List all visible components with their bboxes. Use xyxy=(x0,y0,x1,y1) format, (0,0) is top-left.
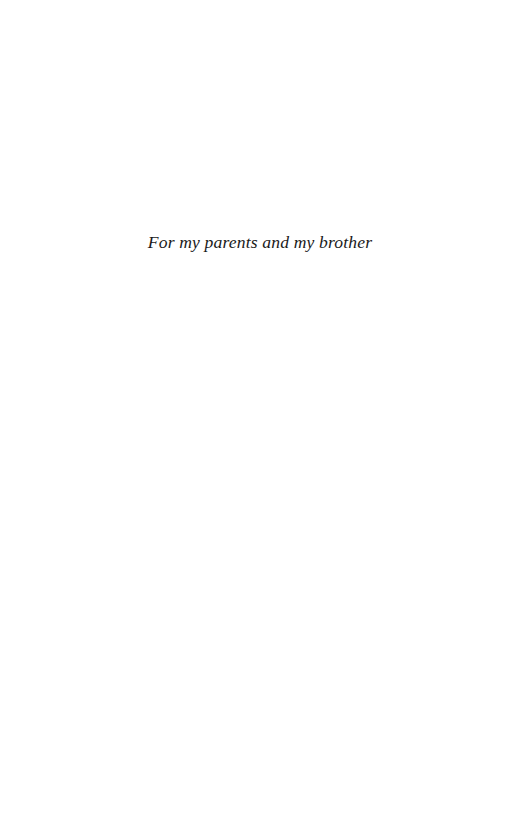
dedication-text: For my parents and my brother xyxy=(148,231,372,253)
dedication-block: For my parents and my brother xyxy=(0,228,520,256)
blank-area-above-dedication xyxy=(0,0,520,228)
blank-area-below-dedication xyxy=(0,256,520,839)
dedication-page: For my parents and my brother xyxy=(0,0,520,839)
